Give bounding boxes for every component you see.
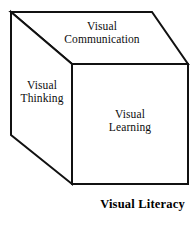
face-label-left-line2: Thinking bbox=[14, 92, 70, 105]
visual-literacy-diagram: Visual Communication Visual Thinking Vis… bbox=[0, 0, 195, 225]
face-label-top: Visual Communication bbox=[52, 20, 152, 47]
face-label-top-line2: Communication bbox=[52, 33, 152, 46]
face-label-front: Visual Learning bbox=[95, 108, 165, 135]
face-label-left: Visual Thinking bbox=[14, 79, 70, 106]
figure-caption: Visual Literacy bbox=[0, 197, 185, 212]
face-label-front-line1: Visual bbox=[95, 108, 165, 121]
face-label-front-line2: Learning bbox=[95, 121, 165, 134]
face-label-left-line1: Visual bbox=[14, 79, 70, 92]
face-label-top-line1: Visual bbox=[52, 20, 152, 33]
